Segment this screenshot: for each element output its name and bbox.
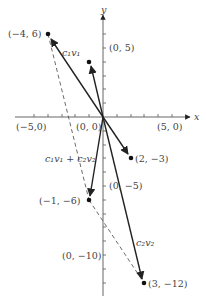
label-neg5x: (−5,0) xyxy=(16,121,46,132)
label-p4: (3, −12) xyxy=(148,278,188,289)
label-neg5y: (0, −5) xyxy=(109,180,143,191)
label-neg10y: (0, −10) xyxy=(62,250,102,261)
vector-diagram: y x (−5,0) (0, 0) (5, 0) (0, 5) (0, −5) … xyxy=(0,0,206,301)
point-p3 xyxy=(87,198,92,203)
label-origin: (0, 0) xyxy=(76,121,102,132)
vector-c2v2 xyxy=(103,117,142,279)
y-axis-label: y xyxy=(100,4,107,15)
label-c1v1: c₁v₁ xyxy=(62,47,80,58)
point-v1-tip xyxy=(87,60,92,65)
point-p1 xyxy=(46,32,51,37)
vector-v1 xyxy=(91,66,103,117)
point-p2 xyxy=(129,156,134,161)
y-axis xyxy=(103,15,106,296)
label-pos5y: (0, 5) xyxy=(109,42,135,53)
label-p3: (−1, −6) xyxy=(39,195,80,206)
label-c2v2: c₂v₂ xyxy=(136,237,154,248)
point-p4 xyxy=(142,281,147,286)
x-axis-label: x xyxy=(194,111,200,122)
label-p2: (2, −3) xyxy=(135,153,169,164)
label-p1: (−4, 6) xyxy=(8,28,42,39)
label-sum: c₁v₁ + c₂v₂ xyxy=(45,153,96,164)
label-pos5x: (5, 0) xyxy=(157,121,183,132)
